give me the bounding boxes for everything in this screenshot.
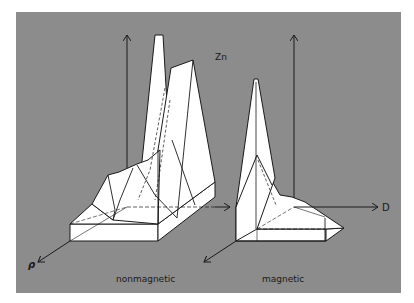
d-axis-label: D [382,202,390,213]
density-surface-diagram: ρ nonmagnetic Zn D magnetic [0,0,414,303]
magnetic-plot: D magnetic [204,35,390,284]
nonmagnetic-caption: nonmagnetic [116,274,175,284]
nonmagnetic-plot: ρ nonmagnetic [28,35,230,284]
magnetic-caption: magnetic [262,274,304,284]
rho-axis-label: ρ [28,259,35,270]
rho-axis [38,241,70,262]
element-label: Zn [215,52,227,62]
